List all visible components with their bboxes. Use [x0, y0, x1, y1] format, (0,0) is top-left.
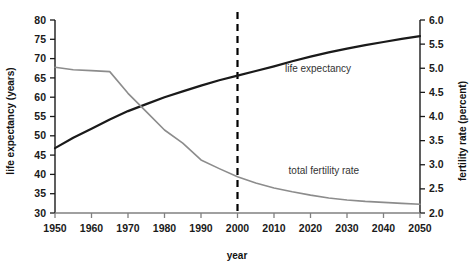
right-axis-tick-label: 3.0: [429, 158, 444, 170]
line-chart: 3035404550556065707580 2.02.53.03.54.04.…: [0, 0, 474, 267]
left-axis-tick-label: 40: [34, 168, 46, 180]
left-axis-tick-label: 30: [34, 207, 46, 219]
right-axis-tick-label: 2.5: [429, 182, 444, 194]
x-axis-tick-label: 2010: [262, 222, 286, 234]
annotation-total-fertility-rate: total fertility rate: [289, 165, 360, 176]
y2-axis-title: fertility rate (percent): [457, 81, 468, 181]
x-axis-tick-label: 2050: [408, 222, 432, 234]
left-axis-tick-label: 60: [34, 91, 46, 103]
x-axis-tick-label: 2030: [335, 222, 359, 234]
x-axis-tick-label: 1990: [189, 222, 213, 234]
x-axis-tick-label: 2040: [372, 222, 396, 234]
left-axis-tick-label: 50: [34, 129, 46, 141]
left-axis-tick-label: 65: [34, 72, 46, 84]
x-axis-tick-label: 2020: [299, 222, 323, 234]
right-axis-tick-label: 5.5: [429, 38, 444, 50]
right-axis-tick-label: 5.0: [429, 62, 444, 74]
x-axis-tick-label: 1950: [43, 222, 67, 234]
right-axis-tick-label: 2.0: [429, 207, 444, 219]
right-axis-tick-label: 4.0: [429, 110, 444, 122]
left-axis-tick-label: 75: [34, 33, 46, 45]
right-axis-tick-label: 6.0: [429, 14, 444, 26]
y-axis-title: life expectancy (years): [5, 67, 16, 174]
x-axis-tick-label: 2000: [226, 222, 250, 234]
x-axis-tick-label: 1970: [116, 222, 140, 234]
x-axis-tick-label: 1980: [153, 222, 177, 234]
left-axis-tick-label: 80: [34, 14, 46, 26]
left-axis-tick-label: 70: [34, 52, 46, 64]
x-axis-title: year: [227, 250, 248, 261]
annotation-life-expectancy: life expectancy: [285, 63, 351, 74]
left-axis-tick-label: 35: [34, 187, 46, 199]
x-axis-tick-label: 1960: [80, 222, 104, 234]
left-axis-tick-label: 45: [34, 149, 46, 161]
right-axis-tick-label: 3.5: [429, 134, 444, 146]
chart-container: 3035404550556065707580 2.02.53.03.54.04.…: [0, 0, 474, 267]
right-axis-tick-label: 4.5: [429, 86, 444, 98]
left-axis-tick-label: 55: [34, 110, 46, 122]
